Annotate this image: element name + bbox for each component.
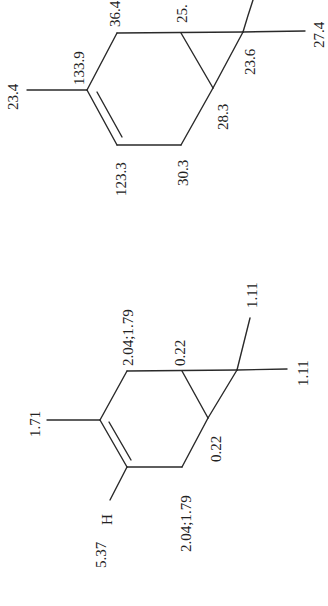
- shift-label: 23.4: [5, 83, 21, 110]
- proton1-structure: 1.71 H 5.37 2.04;1.79 2.04;1.79 0.22 0.2…: [27, 282, 311, 568]
- ring-bond: [182, 418, 208, 467]
- shift-label: 123.3: [113, 162, 129, 196]
- shift-label: 0.22: [172, 340, 188, 366]
- shift-label: 30.3: [175, 160, 191, 186]
- double-bond-outer: [100, 420, 127, 467]
- cyclopropane-bond: [213, 32, 243, 88]
- vinyl-h-bond: [110, 467, 127, 500]
- cyclopropane-bond: [208, 370, 237, 418]
- shift-label: 25.: [174, 4, 190, 23]
- shift-label: 1.11: [244, 282, 260, 308]
- shift-label: 2.04;1.79: [178, 495, 194, 552]
- shift-label: 28.3: [215, 104, 231, 130]
- gem-methyl-bond: [237, 369, 287, 370]
- shift-label: 1.71: [27, 411, 43, 437]
- gem-methyl-bond: [243, 31, 305, 32]
- shift-label: 1.11: [295, 360, 311, 386]
- ring-bond: [181, 88, 213, 145]
- shift-label: 27.4: [311, 21, 327, 48]
- shift-label: 23.6: [242, 48, 258, 75]
- cyclopropane-bond: [182, 371, 208, 418]
- shift-label: 0.22: [208, 436, 224, 462]
- gem-methyl-bond: [237, 318, 250, 370]
- shift-label: 133.9: [71, 51, 87, 85]
- h-atom-label: H: [99, 514, 115, 525]
- shift-label: 36.4: [107, 0, 123, 27]
- shift-label: 5.37: [93, 541, 109, 568]
- ring-bond: [117, 32, 243, 33]
- carbon13-structure: 23.4 133.9 123.3 30.3 28.3 23.6 25. 36.4…: [5, 0, 327, 196]
- gem-methyl-bond: [243, 0, 253, 32]
- ring-bond: [100, 371, 127, 420]
- shift-label: 2.04;1.79: [120, 309, 136, 366]
- double-bond-outer: [87, 90, 117, 145]
- structure-diagram: 23.4 133.9 123.3 30.3 28.3 23.6 25. 36.4…: [0, 0, 328, 606]
- ring-bond: [87, 33, 117, 90]
- cyclopropane-bond: [181, 33, 213, 88]
